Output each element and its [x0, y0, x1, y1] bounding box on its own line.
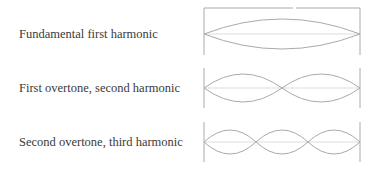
- wave-third-harmonic: [204, 122, 360, 162]
- standing-waves-diagram: [0, 0, 381, 182]
- wave-second-harmonic: [204, 68, 360, 108]
- wave-fundamental: [204, 8, 360, 55]
